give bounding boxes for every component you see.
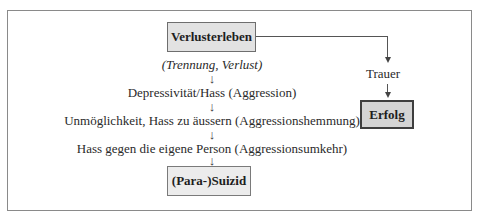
arrow-down-icon: ↓ [206,73,218,85]
arrow-down-icon: ↓ [206,129,218,141]
connector-vertical [387,36,388,58]
connector-horizontal [256,36,387,37]
node-para-suizid-label: (Para-)Suizid [172,173,246,189]
node-para-suizid: (Para-)Suizid [167,166,251,196]
node-verlusterleben-label: Verlusterleben [171,29,252,45]
node-verlusterleben: Verlusterleben [167,22,256,52]
arrow-down-icon: ↓ [206,101,218,113]
